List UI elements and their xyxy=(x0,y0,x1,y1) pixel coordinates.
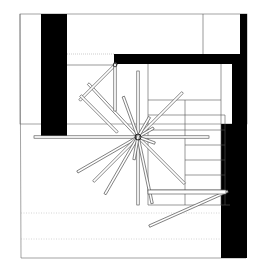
frame-left xyxy=(20,14,21,258)
wall-left xyxy=(41,14,67,133)
stair-lines xyxy=(148,64,230,205)
architectural-plan-drawing xyxy=(0,0,267,269)
wall-right-vertical xyxy=(232,54,247,124)
dotted-lines xyxy=(21,213,221,239)
wall-top-inner xyxy=(114,54,247,64)
